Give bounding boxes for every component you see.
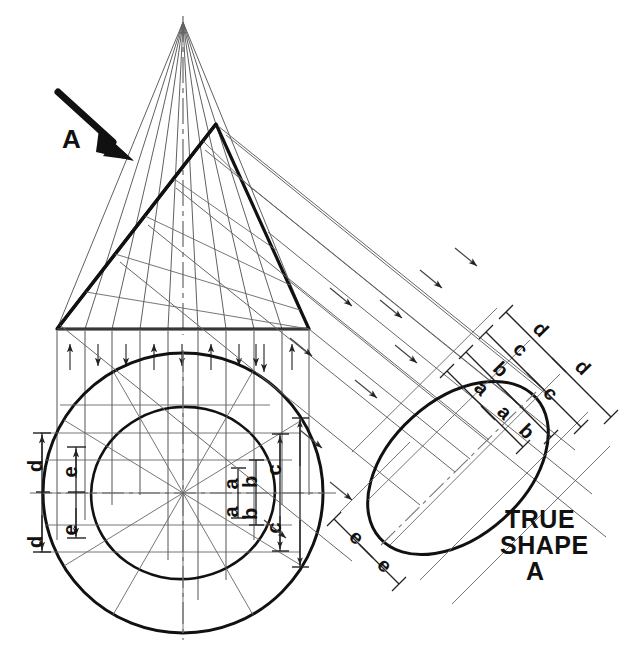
front-elevation-view: A: [57, 16, 309, 335]
ts-dim-d-left: d: [529, 317, 553, 341]
plan-dim-c-upper: c: [263, 464, 285, 475]
plan-view: d e e d: [24, 350, 336, 640]
ts-dim-a-left: a: [470, 376, 494, 400]
plan-dim-e-lower: e: [59, 524, 81, 535]
ts-dim-b-right: b: [515, 419, 539, 443]
view-arrow-label: A: [62, 124, 81, 154]
engineering-drawing-canvas: A: [0, 0, 636, 654]
drawing-svg: A: [0, 0, 636, 654]
ts-dim-e-upper: e: [345, 525, 368, 548]
ts-dim-c-right: c: [539, 381, 562, 404]
plan-dim-e-upper: e: [59, 466, 81, 477]
cutting-plane-edge: [57, 124, 216, 329]
true-shape-caption-line3: A: [526, 557, 545, 585]
plan-dim-b-lower: b: [239, 508, 261, 520]
true-shape-caption-line1: TRUE: [505, 505, 575, 533]
true-shape-caption-line2: SHAPE: [500, 531, 589, 559]
plan-dim-d-upper: d: [24, 460, 46, 472]
plan-dim-b-upper: b: [239, 476, 261, 488]
plan-dim-d-lower: d: [24, 536, 46, 548]
true-shape-lower-dimensions: [327, 512, 406, 591]
ts-dim-e-lower: e: [373, 553, 396, 576]
ts-dim-d-right: d: [571, 355, 595, 379]
projection-arrowheads: [70, 344, 292, 372]
true-shape-view: d c b a a b c d e e TRUE SHAPE A: [327, 305, 618, 604]
